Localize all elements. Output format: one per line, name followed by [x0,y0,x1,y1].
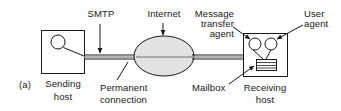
panel-label: (a) [14,80,36,91]
sending-host-connector-line [64,48,86,57]
mta-to-mailbox-line [253,50,263,59]
sending-host-label-line1: Sending [38,79,88,90]
sending-host-user-agent-icon [51,35,65,49]
ua-to-mailbox-line [266,50,271,59]
mailbox-icon [257,60,277,71]
smtp-label: SMTP [80,9,122,20]
mailbox-label: Mailbox [192,83,236,94]
receiving-host-label-line2: host [238,95,292,106]
user-agent-circle-icon [265,38,277,50]
sending-host-label-line2: host [38,92,88,103]
email-architecture-diagram: (a) SMTP Internet Message transfer agent… [0,0,341,111]
user-agent-label-line2: agent [304,19,340,30]
message-transfer-agent-circle-icon [249,38,261,50]
permanent-connection-leader-line [117,62,128,80]
permanent-connection-label-line1: Permanent [100,83,170,94]
message-transfer-agent-label-line3: agent [178,29,234,40]
user-agent-leader-arrow [277,25,303,39]
receiving-host-label-line1: Receiving [238,83,292,94]
internet-cloud [134,36,194,76]
permanent-connection-label-line2: connection [100,95,170,106]
